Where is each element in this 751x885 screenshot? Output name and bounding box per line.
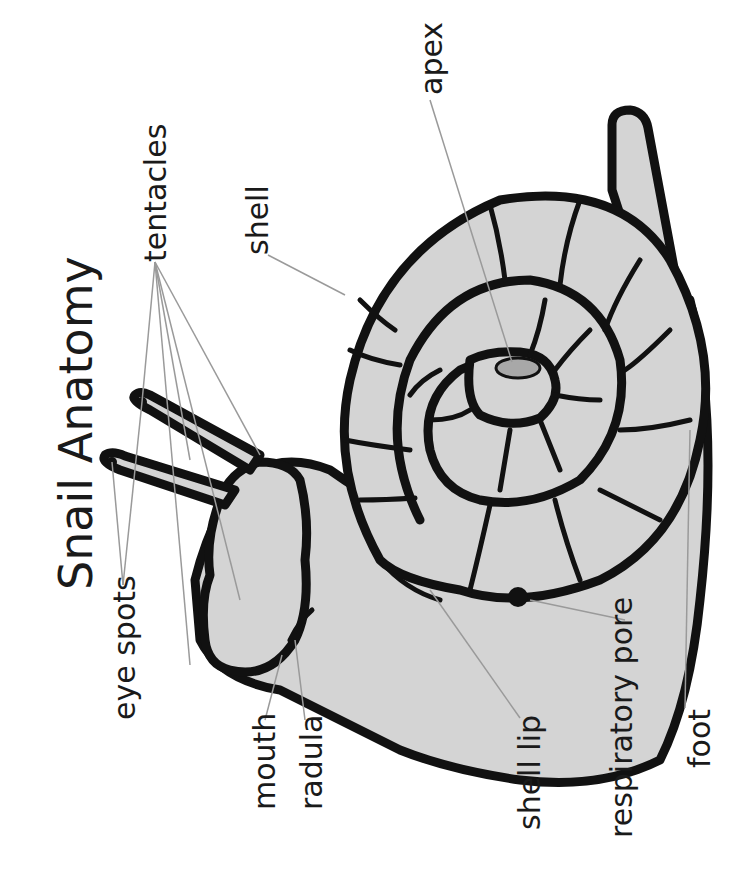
label-foot: foot: [682, 709, 717, 768]
label-apex: apex: [414, 22, 449, 95]
label-respiratory-pore: respiratory pore: [604, 597, 639, 838]
shell-rib: [360, 498, 415, 500]
label-eye-spots: eye spots: [107, 575, 142, 720]
label-radula: radula: [294, 715, 329, 811]
lower-tentacle: [104, 453, 235, 505]
respiratory-pore: [508, 587, 528, 607]
label-mouth: mouth: [247, 713, 282, 810]
label-shell: shell: [240, 185, 275, 255]
snail-anatomy-diagram: Snail Anatomy: [0, 0, 751, 885]
shell-apex: [496, 358, 540, 378]
label-shell-lip: shell lip: [512, 715, 547, 830]
label-tentacles: tentacles: [138, 124, 173, 262]
diagram-title: Snail Anatomy: [49, 256, 103, 590]
